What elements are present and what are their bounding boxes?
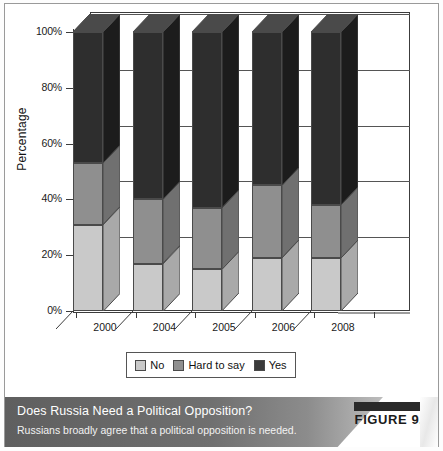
legend-swatch-yes [254, 360, 265, 371]
bar-floor-wedge-2004 [116, 311, 135, 331]
bar-floor-wedge-2005 [175, 311, 194, 331]
bar-segment-2008-hard_to_say [311, 205, 341, 258]
legend-item-yes: Yes [254, 359, 287, 371]
chart-legend: No Hard to say Yes [126, 352, 296, 378]
chart-area: Percentage 0%20%40%60%80%100% 2000200420… [0, 0, 443, 345]
bar-segment-2006-hard_to_say [252, 185, 282, 258]
legend-item-hard-to-say: Hard to say [173, 359, 244, 371]
bar-segment-2000-hard_to_say [73, 163, 103, 224]
legend-swatch-no [135, 360, 146, 371]
y-tick-label-20: 20% [18, 248, 62, 260]
bar-floor-wedge-2000 [56, 311, 75, 331]
y-tick-20 [66, 255, 73, 256]
legend-swatch-hard-to-say [173, 360, 184, 371]
bar-top-cap-2008 [311, 14, 358, 33]
bar-floor-wedge-2006 [235, 311, 254, 331]
x-tick-2006 [255, 312, 256, 318]
bar-side-2005-yes [222, 14, 239, 208]
bar-segment-2004-hard_to_say [133, 199, 163, 263]
bar-segment-2000-yes [73, 32, 103, 163]
x-tick-2000 [76, 312, 77, 318]
x-tick-2008 [314, 312, 315, 318]
y-tick-label-100: 100% [18, 25, 62, 37]
bar-segment-2008-yes [311, 32, 341, 205]
bar-side-2000-yes [103, 14, 120, 163]
caption-edge-highlight [420, 397, 438, 447]
y-tick-100 [66, 32, 73, 33]
x-tick-2005 [195, 312, 196, 318]
bar-segment-2005-no [192, 269, 222, 311]
bar-segment-2004-no [133, 264, 163, 311]
x-tick-label-2008: 2008 [315, 321, 371, 333]
bar-side-2004-yes [163, 14, 180, 199]
figure-caption-band: Does Russia Need a Political Opposition?… [5, 397, 438, 447]
y-tick-label-40: 40% [18, 192, 62, 204]
y-tick-label-80: 80% [18, 81, 62, 93]
bar-floor-wedge-2008 [294, 311, 313, 331]
bar-top-cap-2000 [73, 14, 120, 33]
bar-segment-2004-yes [133, 32, 163, 199]
y-tick-40 [66, 199, 73, 200]
bar-segment-2005-hard_to_say [192, 208, 222, 269]
legend-label-hard-to-say: Hard to say [188, 359, 244, 371]
bar-segment-2008-no [311, 258, 341, 311]
y-tick-60 [66, 144, 73, 145]
y-tick-label-60: 60% [18, 137, 62, 149]
y-tick-80 [66, 88, 73, 89]
bar-segment-2006-yes [252, 32, 282, 185]
x-tick-end [374, 312, 375, 318]
legend-item-no: No [135, 359, 164, 371]
bar-segment-2006-no [252, 258, 282, 311]
caption-title: Does Russia Need a Political Opposition? [17, 404, 252, 418]
bar-side-2006-yes [282, 14, 299, 185]
bar-segment-2005-yes [192, 32, 222, 208]
bar-top-cap-2005 [192, 14, 239, 33]
bar-top-cap-2006 [252, 14, 299, 33]
legend-label-no: No [150, 359, 164, 371]
caption-subtitle: Russians broadly agree that a political … [17, 424, 297, 436]
bar-top-cap-2004 [133, 14, 180, 33]
x-tick-2004 [136, 312, 137, 318]
bar-side-2008-yes [341, 14, 358, 205]
legend-label-yes: Yes [269, 359, 287, 371]
bar-segment-2000-no [73, 225, 103, 311]
figure-page: Percentage 0%20%40%60%80%100% 2000200420… [0, 0, 443, 451]
